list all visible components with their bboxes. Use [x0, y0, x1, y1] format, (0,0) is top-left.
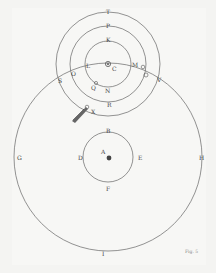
label-g: G — [17, 154, 22, 161]
label-a: A — [100, 148, 106, 155]
label-k: K — [106, 36, 111, 43]
label-p: P — [106, 22, 110, 29]
figure-caption: Fig. 5 — [185, 249, 198, 254]
label-b: B — [106, 127, 111, 134]
label-o: O — [71, 70, 76, 77]
label-c: C — [112, 65, 117, 72]
label-t: T — [106, 8, 110, 15]
body-a-icon — [107, 156, 112, 161]
label-v: V — [156, 76, 162, 83]
label-e: E — [138, 154, 142, 161]
label-r: R — [107, 101, 112, 108]
label-n: N — [105, 87, 110, 94]
orbit-diagram: T P K C S O L M V Q N R X B D E F A G H … — [0, 0, 216, 273]
label-q: Q — [91, 84, 96, 91]
label-d: D — [78, 154, 83, 161]
planet-m-icon — [141, 65, 145, 69]
label-h: H — [199, 154, 204, 161]
label-x: X — [91, 108, 96, 115]
label-s: S — [58, 77, 62, 84]
comet-icon — [72, 107, 88, 123]
label-f: F — [106, 185, 110, 192]
label-l: L — [86, 62, 90, 69]
label-m: M — [132, 61, 138, 68]
